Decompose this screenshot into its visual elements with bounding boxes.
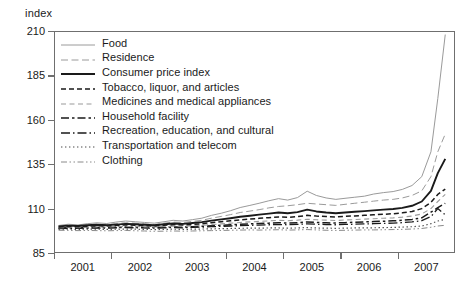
x-tick-label: 2002 (116, 261, 164, 273)
legend-item: Consumer price index (61, 65, 274, 80)
x-tick-label: 2007 (402, 261, 450, 273)
x-tick-mark (398, 253, 399, 259)
legend-item: Clothing (61, 153, 274, 168)
y-tick-label: 210 (11, 25, 45, 37)
legend-item: Food (61, 36, 274, 51)
legend-swatch-icon (61, 139, 95, 151)
legend-swatch-icon (61, 52, 95, 64)
legend-label: Residence (102, 52, 154, 63)
x-tick-mark (283, 253, 284, 259)
legend-label: Clothing (102, 155, 143, 166)
legend-label: Recreation, education, and cultural (102, 125, 274, 136)
legend-swatch-icon (61, 154, 95, 166)
legend-label: Household facility (102, 111, 189, 122)
legend-label: Tobacco, liquor, and articles (102, 82, 239, 93)
y-tick-label: 160 (11, 114, 45, 126)
legend-swatch-icon (61, 96, 95, 108)
x-tick-mark (226, 253, 227, 259)
legend-label: Medicines and medical appliances (102, 96, 271, 107)
y-tick-label: 185 (11, 69, 45, 81)
legend-swatch-icon (61, 110, 95, 122)
y-tick-label: 110 (11, 203, 45, 215)
legend-item: Household facility (61, 109, 274, 124)
legend-label: Consumer price index (102, 67, 210, 78)
y-tick-label: 135 (11, 158, 45, 170)
x-tick-mark (169, 253, 170, 259)
legend-item: Tobacco, liquor, and articles (61, 80, 274, 95)
x-tick-mark (54, 253, 55, 259)
legend-item: Transportation and telecom (61, 138, 274, 153)
legend-label: Food (102, 38, 127, 49)
x-tick-label: 2003 (173, 261, 221, 273)
legend-label: Transportation and telecom (102, 140, 237, 151)
x-tick-label: 2005 (288, 261, 336, 273)
legend-swatch-icon (61, 37, 95, 49)
legend-item: Residence (61, 51, 274, 66)
y-axis-title: index (25, 7, 52, 19)
legend-item: Medicines and medical appliances (61, 94, 274, 109)
x-tick-label: 2004 (231, 261, 279, 273)
y-tick-label: 85 (11, 247, 45, 259)
x-tick-label: 2001 (59, 261, 107, 273)
series-line (59, 189, 446, 227)
chart-root: index 21018516013511085 2001200220032004… (0, 0, 471, 291)
legend-swatch-icon (61, 125, 95, 137)
x-tick-label: 2006 (345, 261, 393, 273)
legend-item: Recreation, education, and cultural (61, 124, 274, 139)
x-tick-mark (340, 253, 341, 259)
legend-swatch-icon (61, 81, 95, 93)
legend-swatch-icon (61, 66, 95, 78)
x-tick-mark (111, 253, 112, 259)
chart-legend: FoodResidenceConsumer price indexTobacco… (61, 36, 274, 167)
